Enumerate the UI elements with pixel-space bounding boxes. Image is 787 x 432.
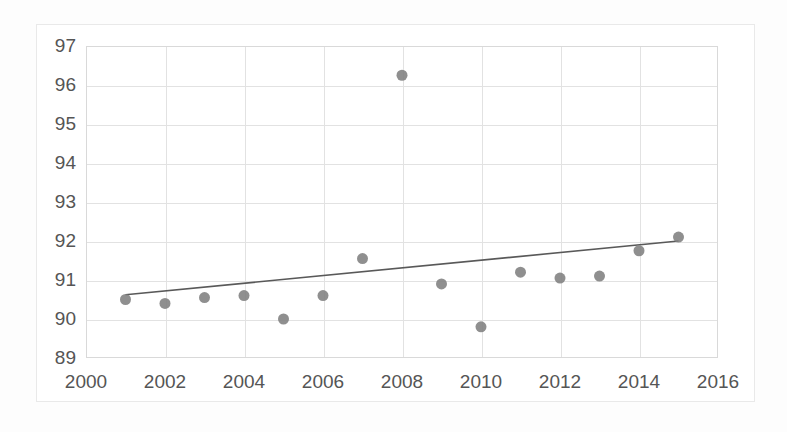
x-tick-label-2008: 2008	[381, 372, 423, 391]
x-tick-label-2006: 2006	[302, 372, 344, 391]
chart-scene: 899091929394959697 200020022004200620082…	[0, 0, 787, 432]
x-tick-label-2014: 2014	[618, 372, 660, 391]
x-tick-label-2016: 2016	[697, 372, 739, 391]
x-tick-label-2010: 2010	[460, 372, 502, 391]
x-tick-label-2012: 2012	[539, 372, 581, 391]
x-tick-label-2002: 2002	[144, 372, 186, 391]
x-tick-label-2000: 2000	[65, 372, 107, 391]
x-axis-tick-labels: 200020022004200620082010201220142016	[0, 0, 787, 432]
x-tick-label-2004: 2004	[223, 372, 265, 391]
